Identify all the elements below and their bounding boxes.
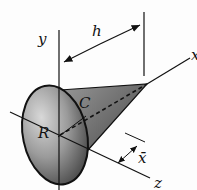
height-label: h bbox=[92, 22, 102, 40]
xbar-dimension-arrow-top bbox=[127, 146, 137, 155]
diagram-canvas: y h C R x̄ z x bbox=[0, 0, 197, 190]
y-axis-label: y bbox=[37, 30, 47, 48]
centroid-label: C bbox=[79, 94, 91, 112]
x-axis bbox=[147, 58, 190, 84]
cone-centroid-diagram: y h C R x̄ z x bbox=[0, 0, 197, 190]
height-dimension-arrow bbox=[64, 44, 100, 62]
radius-label: R bbox=[37, 124, 49, 142]
x-axis-label: x bbox=[191, 46, 197, 64]
z-axis-label: z bbox=[153, 174, 162, 190]
xbar-dimension-arrow bbox=[118, 155, 127, 163]
xbar-label: x̄ bbox=[138, 149, 147, 167]
xbar-extension-line bbox=[125, 133, 145, 142]
height-dimension-arrow-right bbox=[100, 25, 140, 44]
